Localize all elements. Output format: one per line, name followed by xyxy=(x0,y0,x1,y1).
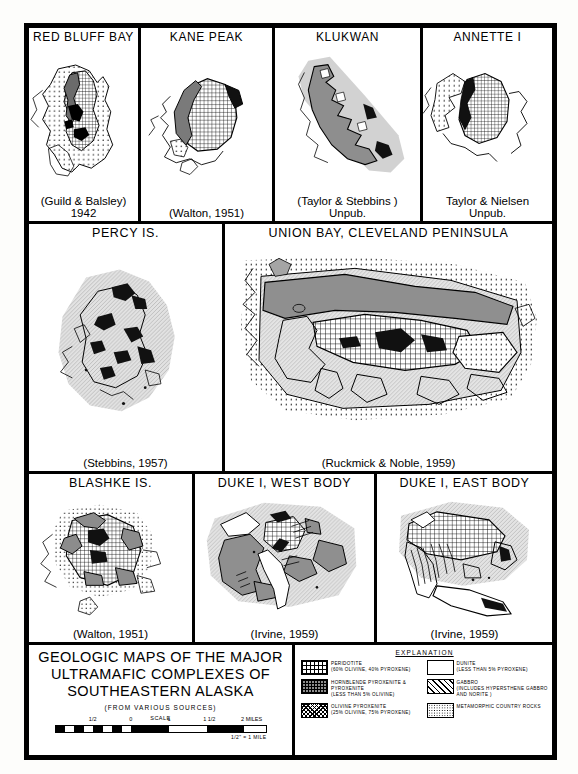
map-panel-annette-i[interactable]: ANNETTE I Taylor & Nielsen Unpub. xyxy=(423,28,552,221)
scale-bar-group: SCALE 1/2 0 1 1 1/2 2 MILES 1/2" = 1 MIL… xyxy=(55,716,267,740)
legend-swatch-peridotite xyxy=(301,660,328,675)
legend-item[interactable]: DUNITE (LESS THAN 5% PYROXENE) xyxy=(427,660,549,675)
map-graphic-percy-is xyxy=(29,240,222,457)
panel-title: RED BLUFF BAY xyxy=(29,28,138,44)
panel-caption: (Stebbins, 1957) xyxy=(29,457,222,471)
map-panel-klukwan[interactable]: KLUKWAN (Taylor & Stebbins ) Unpub. xyxy=(275,28,423,221)
scale-tick-2: 1 xyxy=(167,716,170,722)
map-panel-kane-peak[interactable]: KANE PEAK (Walton, 1951) xyxy=(141,28,275,221)
panel-title: ANNETTE I xyxy=(423,28,552,44)
legend-item[interactable]: OLIVINE PYROXENITE (25% OLIVINE, 75% PYR… xyxy=(301,703,423,718)
map-panel-duke-i-east[interactable]: DUKE I, EAST BODY xyxy=(377,474,552,642)
map-graphic-klukwan xyxy=(275,44,420,195)
legend-column-left: PERIDOTITE (60% OLIVINE, 40% PYROXENE) H… xyxy=(301,660,423,722)
map-graphic-annette-i xyxy=(423,44,552,195)
panel-title: KLUKWAN xyxy=(275,28,420,44)
legend-detail: (LESS THAN 5% OLIVINE) xyxy=(331,692,423,698)
panel-title: DUKE I, WEST BODY xyxy=(195,474,374,490)
panel-caption: (Irvine, 1959) xyxy=(195,628,374,642)
map-panel-union-bay[interactable]: UNION BAY, CLEVELAND PENINSULA xyxy=(225,224,552,471)
panel-caption: (Guild & Balsley) 1942 xyxy=(29,195,138,221)
map-graphic-duke-i-east xyxy=(377,490,552,628)
scale-tick-4: 2 MILES xyxy=(241,716,262,722)
map-panel-red-bluff-bay[interactable]: RED BLUFF BAY xyxy=(29,28,141,221)
map-panel-duke-i-west[interactable]: DUKE I, WEST BODY xyxy=(195,474,377,642)
panel-caption: Taylor & Nielsen Unpub. xyxy=(423,195,552,221)
map-graphic-kane-peak xyxy=(141,44,272,207)
legend-item[interactable]: HORNBLENDE PYROXENITE & PYROXENITE (LESS… xyxy=(301,679,423,699)
map-graphic-blashke-is xyxy=(29,490,192,628)
legend-swatch-gabbro xyxy=(427,679,454,694)
panel-title: UNION BAY, CLEVELAND PENINSULA xyxy=(225,224,552,240)
geologic-map-figure: RED BLUFF BAY xyxy=(24,23,557,760)
map-graphic-union-bay xyxy=(225,240,552,457)
map-graphic-red-bluff-bay xyxy=(29,44,138,195)
legend-item[interactable]: GABBRO (INCLUDES HYPERSTHENE GABBRO AND … xyxy=(427,679,549,699)
panel-caption: (Taylor & Stebbins ) Unpub. xyxy=(275,195,420,221)
map-panel-percy-is[interactable]: PERCY IS. xyxy=(29,224,225,471)
map-graphic-duke-i-west xyxy=(195,490,374,628)
legend-swatch-olivine-pyroxenite xyxy=(301,703,328,718)
legend-item[interactable]: METAMORPHIC COUNTRY ROCKS xyxy=(427,703,549,718)
scale-footnote: 1/2" = 1 MILE xyxy=(55,734,267,740)
panel-caption: (Walton, 1951) xyxy=(29,628,192,642)
panel-caption: (Ruckmick & Noble, 1959) xyxy=(225,457,552,471)
legend-column-right: DUNITE (LESS THAN 5% PYROXENE) GABBRO (I… xyxy=(427,660,549,722)
map-row-bottom: BLASHKE IS. xyxy=(29,474,552,645)
legend-item[interactable]: PERIDOTITE (60% OLIVINE, 40% PYROXENE) xyxy=(301,660,423,675)
map-row-top: RED BLUFF BAY xyxy=(29,28,552,224)
panel-title: DUKE I, EAST BODY xyxy=(377,474,552,490)
panel-caption: (Walton, 1951) xyxy=(141,207,272,221)
legend-detail: (LESS THAN 5% PYROXENE) xyxy=(457,667,528,673)
legend-swatch-hornblende-pyroxenite xyxy=(301,679,328,694)
legend-swatch-metamorphic xyxy=(427,703,454,718)
legend-detail: (25% OLIVINE, 75% PYROXENE) xyxy=(331,710,411,716)
panel-title: KANE PEAK xyxy=(141,28,272,44)
legend-heading: EXPLANATION xyxy=(301,649,548,656)
map-panel-blashke-is[interactable]: BLASHKE IS. xyxy=(29,474,195,642)
scale-tick-labels: 1/2 0 1 1 1/2 2 MILES xyxy=(55,716,267,725)
figure-title-line-3: SOUTHEASTERN ALASKA xyxy=(67,683,254,700)
figure-title-line-1: GEOLOGIC MAPS OF THE MAJOR xyxy=(38,649,283,666)
panel-caption: (Irvine, 1959) xyxy=(377,628,552,642)
scale-tick-0: 1/2 xyxy=(89,716,97,722)
title-and-legend-block: GEOLOGIC MAPS OF THE MAJOR ULTRAMAFIC CO… xyxy=(29,645,552,757)
figure-sources-note: (FROM VARIOUS SOURCES) xyxy=(104,704,216,711)
scale-tick-3: 1 1/2 xyxy=(203,716,215,722)
panel-title: PERCY IS. xyxy=(29,224,222,240)
figure-title-line-2: ULTRAMAFIC COMPLEXES OF xyxy=(51,666,270,683)
legend-detail: (INCLUDES HYPERSTHENE GABBRO AND NORITE … xyxy=(457,686,549,698)
figure-title-block: GEOLOGIC MAPS OF THE MAJOR ULTRAMAFIC CO… xyxy=(29,645,295,757)
legend-block: EXPLANATION PERIDOTITE (60% OLIVINE, 40%… xyxy=(295,645,552,757)
panel-title: BLASHKE IS. xyxy=(29,474,192,490)
legend-label: METAMORPHIC COUNTRY ROCKS xyxy=(457,704,541,710)
legend-label: HORNBLENDE PYROXENITE & PYROXENITE xyxy=(331,680,423,692)
legend-swatch-dunite xyxy=(427,660,454,675)
scale-tick-1: 0 xyxy=(129,716,132,722)
scale-bar xyxy=(55,725,267,733)
legend-detail: (60% OLIVINE, 40% PYROXENE) xyxy=(331,667,411,673)
map-row-middle: PERCY IS. xyxy=(29,224,552,474)
